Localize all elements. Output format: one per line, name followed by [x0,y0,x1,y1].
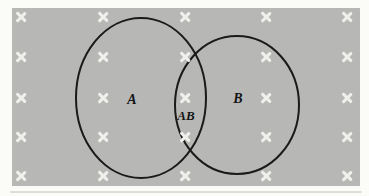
sample-point-mark [179,170,191,182]
sample-point-mark [15,11,27,23]
sample-point-mark [341,170,353,182]
sample-point-mark [179,131,191,143]
sample-point-mark [179,51,191,63]
sample-point-mark [341,92,353,104]
sample-point-mark [15,170,27,182]
sample-point-mark [260,170,272,182]
sample-points-layer [0,0,369,196]
sample-point-mark [97,11,109,23]
sample-point-mark [97,131,109,143]
sample-point-mark [97,170,109,182]
sample-point-mark [179,92,191,104]
sample-point-mark [15,131,27,143]
sample-point-mark [260,51,272,63]
region-label-a: A [127,93,136,107]
sample-point-mark [15,92,27,104]
sample-point-mark [260,11,272,23]
scan-shadow-line [10,191,362,193]
sample-point-mark [97,92,109,104]
sample-point-mark [341,51,353,63]
sample-point-mark [341,131,353,143]
sample-point-mark [15,51,27,63]
sample-point-mark [260,131,272,143]
region-label-b: B [233,92,242,106]
sample-point-mark [260,92,272,104]
sample-point-mark [97,51,109,63]
region-label-ab: AB [177,109,194,122]
venn-diagram-figure: A AB B [0,0,369,196]
sample-point-mark [179,11,191,23]
sample-point-mark [341,11,353,23]
